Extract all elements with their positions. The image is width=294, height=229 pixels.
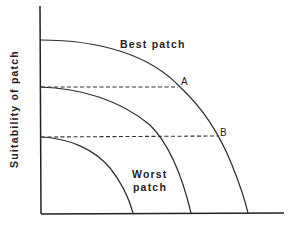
best-patch-label: Best patch <box>120 38 186 50</box>
patch-suitability-diagram: Best patch Worst patch A B Suitability o… <box>0 0 294 229</box>
worst-patch-curve <box>40 137 133 213</box>
dashed-line-to-b <box>41 136 219 137</box>
point-b-label: B <box>220 127 227 138</box>
y-axis-label: Suitability of patch <box>8 50 20 168</box>
y-axis <box>40 6 41 214</box>
x-axis <box>41 213 284 214</box>
worst-patch-label-line1: Worst <box>132 168 168 180</box>
middle-patch-curve <box>40 87 191 213</box>
worst-patch-label-line2: patch <box>133 181 167 193</box>
point-a-label: A <box>181 76 188 87</box>
